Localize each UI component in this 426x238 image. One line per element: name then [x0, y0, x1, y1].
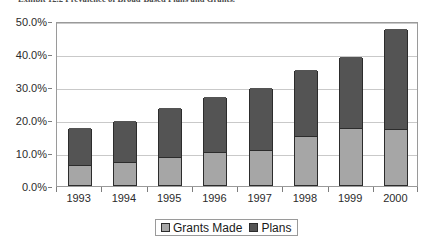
bar-stack[interactable] — [249, 89, 273, 186]
y-axis-tick-label: 50.0% — [0, 16, 52, 28]
bar-segment-grants-made[interactable] — [340, 128, 362, 185]
bar-group[interactable] — [158, 23, 182, 186]
bar-segment-plans[interactable] — [204, 97, 226, 152]
bar-stack[interactable] — [68, 129, 92, 186]
bar-segment-grants-made[interactable] — [385, 129, 407, 185]
bar-segment-grants-made[interactable] — [295, 136, 317, 186]
x-axis-tick-label: 1996 — [202, 192, 226, 204]
legend-swatch-plans — [249, 223, 258, 232]
y-axis-tick-mark — [48, 154, 52, 155]
bar-group[interactable] — [384, 23, 408, 186]
bar-stack[interactable] — [294, 71, 318, 186]
legend-item-label: Grants Made — [173, 221, 242, 235]
bar-stack[interactable] — [113, 122, 137, 186]
bar-group[interactable] — [113, 23, 137, 186]
y-axis-tick-mark — [48, 121, 52, 122]
bar-group[interactable] — [339, 23, 363, 186]
legend-item[interactable]: Grants Made — [161, 221, 242, 235]
bar-stack[interactable] — [158, 109, 182, 186]
legend-item[interactable]: Plans — [249, 221, 291, 235]
chart-legend: Grants MadePlans — [155, 219, 298, 236]
bar-group[interactable] — [203, 23, 227, 186]
bar-segment-plans[interactable] — [295, 70, 317, 135]
bar-stack[interactable] — [339, 58, 363, 186]
bar-group[interactable] — [68, 23, 92, 186]
bar-segment-plans[interactable] — [385, 29, 407, 129]
bar-segment-plans[interactable] — [69, 128, 91, 165]
bar-segment-grants-made[interactable] — [204, 152, 226, 185]
x-axis-tick-label: 1997 — [247, 192, 271, 204]
bar-segment-grants-made[interactable] — [114, 162, 136, 185]
y-axis-tick-label: 10.0% — [0, 148, 52, 160]
y-axis-tick-mark — [48, 22, 52, 23]
x-axis-tick-label: 1993 — [66, 192, 90, 204]
bar-stack[interactable] — [203, 98, 227, 186]
bar-segment-grants-made[interactable] — [69, 165, 91, 185]
legend-swatch-grants-made — [161, 223, 170, 232]
plot-area — [56, 22, 418, 187]
x-axis-tick-label: 2000 — [383, 192, 407, 204]
x-axis-tick-label: 1995 — [157, 192, 181, 204]
y-axis-tick-label: 30.0% — [0, 82, 52, 94]
bar-segment-plans[interactable] — [114, 121, 136, 162]
y-axis-tick-label: 20.0% — [0, 115, 52, 127]
y-axis-tick-label: 0.0% — [0, 181, 52, 193]
chart-figure: 0.0%10.0%20.0%30.0%40.0%50.0% 1993199419… — [0, 0, 426, 238]
y-axis-labels: 0.0%10.0%20.0%30.0%40.0%50.0% — [0, 22, 52, 187]
bar-segment-plans[interactable] — [340, 57, 362, 128]
bar-segment-plans[interactable] — [250, 88, 272, 150]
bar-series-container — [57, 23, 417, 186]
bar-stack[interactable] — [384, 30, 408, 186]
bar-segment-grants-made[interactable] — [159, 157, 181, 185]
bar-segment-plans[interactable] — [159, 108, 181, 157]
x-axis-tick-label: 1994 — [112, 192, 136, 204]
bar-group[interactable] — [249, 23, 273, 186]
x-axis-tick-label: 1998 — [293, 192, 317, 204]
bar-segment-grants-made[interactable] — [250, 150, 272, 185]
bar-group[interactable] — [294, 23, 318, 186]
x-axis-labels: 19931994199519961997199819992000 — [56, 192, 418, 208]
y-axis-tick-mark — [48, 55, 52, 56]
y-axis-tick-mark — [48, 88, 52, 89]
y-axis-tick-mark — [48, 187, 52, 188]
x-axis-tick-label: 1999 — [338, 192, 362, 204]
y-axis-tick-label: 40.0% — [0, 49, 52, 61]
legend-item-label: Plans — [261, 221, 291, 235]
